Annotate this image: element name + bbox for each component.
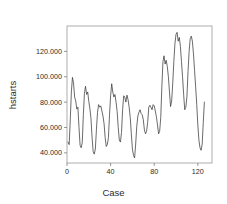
x-tick-label: 120	[192, 167, 204, 176]
y-axis-title: hstarts	[7, 80, 18, 109]
y-tick-label: 100.000	[36, 72, 62, 81]
x-tick-label: 0	[65, 167, 69, 176]
y-tick-label: 60.000	[40, 123, 62, 132]
y-tick-label: 120.000	[36, 47, 62, 56]
line-chart: 40.00060.00080.000100.000120.000 0408012…	[0, 0, 227, 204]
chart-container: 40.00060.00080.000100.000120.000 0408012…	[0, 0, 227, 204]
y-tick-label: 40.000	[40, 148, 62, 157]
x-tick-label: 40	[107, 167, 115, 176]
x-tick-label: 80	[150, 167, 158, 176]
x-axis-title: Case	[102, 187, 124, 198]
y-tick-label: 80.000	[40, 98, 62, 107]
